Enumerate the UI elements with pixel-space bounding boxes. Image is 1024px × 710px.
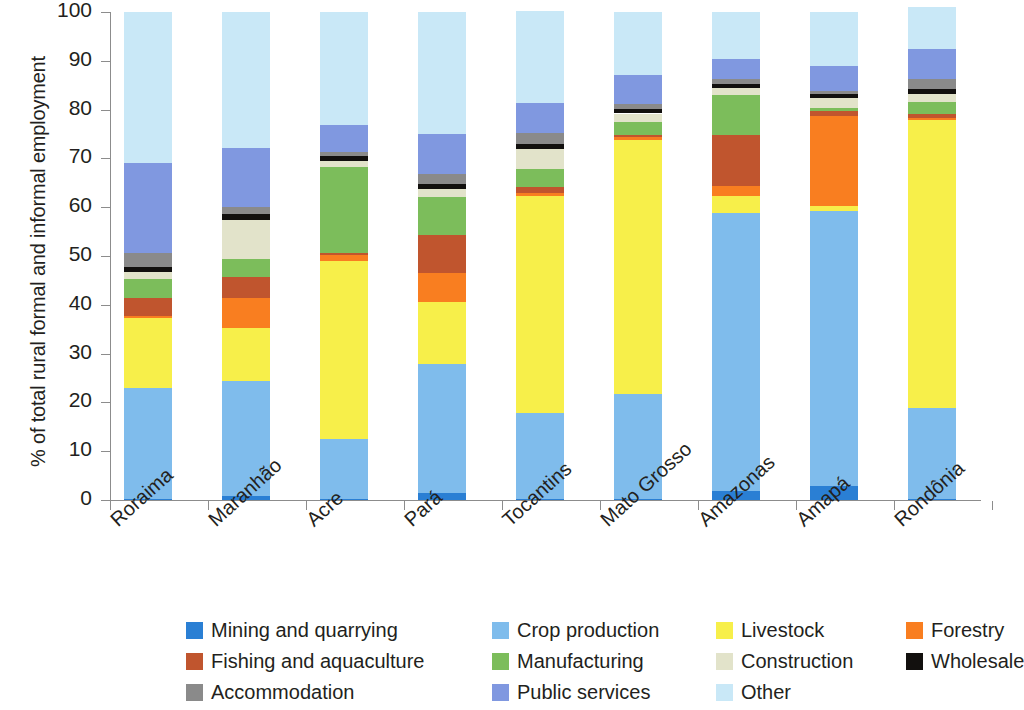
bar-segment[interactable] bbox=[516, 11, 564, 104]
bar-segment[interactable] bbox=[908, 79, 956, 89]
legend-item[interactable]: Construction bbox=[716, 651, 853, 671]
bar-pará[interactable] bbox=[418, 12, 466, 500]
bar-segment[interactable] bbox=[712, 95, 760, 136]
bar-segment[interactable] bbox=[908, 114, 956, 118]
bar-segment[interactable] bbox=[908, 49, 956, 80]
legend-item[interactable]: Fishing and aquaculture bbox=[186, 651, 424, 671]
bar-segment[interactable] bbox=[320, 253, 368, 254]
bar-segment[interactable] bbox=[908, 94, 956, 101]
legend-item[interactable]: Other bbox=[716, 682, 791, 702]
bar-segment[interactable] bbox=[222, 12, 270, 149]
bar-segment[interactable] bbox=[614, 140, 662, 394]
bar-segment[interactable] bbox=[222, 328, 270, 381]
bar-segment[interactable] bbox=[222, 207, 270, 214]
bar-segment[interactable] bbox=[222, 220, 270, 259]
bar-segment[interactable] bbox=[222, 259, 270, 278]
bar-segment[interactable] bbox=[320, 161, 368, 167]
bar-segment[interactable] bbox=[712, 196, 760, 213]
bar-segment[interactable] bbox=[810, 111, 858, 116]
bar-segment[interactable] bbox=[810, 206, 858, 211]
bar-segment[interactable] bbox=[320, 12, 368, 124]
bar-segment[interactable] bbox=[320, 125, 368, 152]
bar-amapá[interactable] bbox=[810, 12, 858, 500]
bar-segment[interactable] bbox=[614, 135, 662, 137]
bar-segment[interactable] bbox=[712, 59, 760, 79]
legend-item[interactable]: Accommodation bbox=[186, 682, 354, 702]
bar-segment[interactable] bbox=[810, 66, 858, 91]
bar-segment[interactable] bbox=[614, 109, 662, 114]
bar-acre[interactable] bbox=[320, 12, 368, 500]
bar-segment[interactable] bbox=[516, 169, 564, 187]
bar-segment[interactable] bbox=[320, 167, 368, 253]
bar-mato-grosso[interactable] bbox=[614, 12, 662, 500]
bar-segment[interactable] bbox=[712, 84, 760, 87]
legend-item[interactable]: Livestock bbox=[716, 620, 824, 640]
bar-segment[interactable] bbox=[222, 214, 270, 220]
bar-segment[interactable] bbox=[516, 193, 564, 196]
legend-item[interactable]: Public services bbox=[492, 682, 650, 702]
bar-segment[interactable] bbox=[418, 273, 466, 302]
bar-segment[interactable] bbox=[320, 261, 368, 439]
bar-segment[interactable] bbox=[418, 235, 466, 273]
bar-segment[interactable] bbox=[810, 94, 858, 98]
bar-segment[interactable] bbox=[516, 149, 564, 169]
bar-segment[interactable] bbox=[124, 298, 172, 315]
bar-segment[interactable] bbox=[614, 137, 662, 140]
bar-segment[interactable] bbox=[418, 189, 466, 197]
bar-segment[interactable] bbox=[320, 255, 368, 261]
bar-segment[interactable] bbox=[614, 75, 662, 103]
bar-segment[interactable] bbox=[418, 12, 466, 134]
bar-segment[interactable] bbox=[124, 253, 172, 267]
bar-segment[interactable] bbox=[614, 114, 662, 123]
bar-segment[interactable] bbox=[418, 197, 466, 235]
bar-segment[interactable] bbox=[124, 12, 172, 163]
bar-segment[interactable] bbox=[712, 79, 760, 84]
bar-segment[interactable] bbox=[614, 122, 662, 135]
bar-segment[interactable] bbox=[614, 12, 662, 75]
bar-segment[interactable] bbox=[810, 116, 858, 206]
bar-segment[interactable] bbox=[810, 98, 858, 108]
legend-item[interactable]: Wholesale bbox=[906, 651, 1024, 671]
bar-segment[interactable] bbox=[712, 135, 760, 186]
bar-segment[interactable] bbox=[516, 196, 564, 413]
bar-segment[interactable] bbox=[124, 163, 172, 253]
bar-segment[interactable] bbox=[124, 316, 172, 319]
bar-segment[interactable] bbox=[222, 148, 270, 207]
bar-segment[interactable] bbox=[124, 279, 172, 299]
bar-segment[interactable] bbox=[222, 277, 270, 297]
bar-segment[interactable] bbox=[418, 364, 466, 493]
bar-segment[interactable] bbox=[124, 318, 172, 387]
bar-segment[interactable] bbox=[908, 120, 956, 408]
bar-segment[interactable] bbox=[712, 213, 760, 491]
bar-segment[interactable] bbox=[418, 302, 466, 364]
bar-segment[interactable] bbox=[418, 134, 466, 173]
bar-segment[interactable] bbox=[810, 12, 858, 66]
bar-tocantins[interactable] bbox=[516, 12, 564, 500]
bar-segment[interactable] bbox=[810, 108, 858, 111]
bar-segment[interactable] bbox=[516, 187, 564, 193]
bar-segment[interactable] bbox=[124, 267, 172, 272]
bar-segment[interactable] bbox=[418, 184, 466, 189]
legend-item[interactable]: Manufacturing bbox=[492, 651, 644, 671]
bar-segment[interactable] bbox=[516, 133, 564, 144]
bar-segment[interactable] bbox=[908, 7, 956, 48]
bar-segment[interactable] bbox=[712, 186, 760, 196]
bar-segment[interactable] bbox=[712, 88, 760, 95]
bar-segment[interactable] bbox=[124, 272, 172, 279]
bar-rondônia[interactable] bbox=[908, 12, 956, 500]
bar-segment[interactable] bbox=[320, 152, 368, 157]
bar-maranhão[interactable] bbox=[222, 12, 270, 500]
legend-item[interactable]: Mining and quarrying bbox=[186, 620, 398, 640]
bar-segment[interactable] bbox=[810, 91, 858, 94]
bar-segment[interactable] bbox=[810, 211, 858, 487]
legend-item[interactable]: Crop production bbox=[492, 620, 659, 640]
bar-segment[interactable] bbox=[516, 144, 564, 149]
bar-segment[interactable] bbox=[712, 12, 760, 59]
bar-segment[interactable] bbox=[320, 156, 368, 160]
bar-segment[interactable] bbox=[516, 103, 564, 132]
bar-segment[interactable] bbox=[614, 104, 662, 109]
bar-segment[interactable] bbox=[418, 174, 466, 184]
bar-segment[interactable] bbox=[908, 89, 956, 94]
bar-segment[interactable] bbox=[908, 102, 956, 114]
bar-roraima[interactable] bbox=[124, 12, 172, 500]
